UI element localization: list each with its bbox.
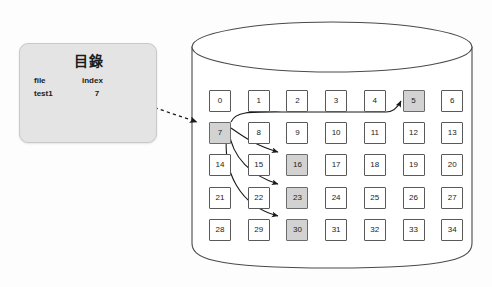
directory-cell-index: 7 xyxy=(82,87,146,100)
disk-block-24[interactable]: 24 xyxy=(325,187,347,209)
disk-block-3[interactable]: 3 xyxy=(325,90,347,112)
disk-block-27[interactable]: 27 xyxy=(441,187,463,209)
directory-title: 目錄 xyxy=(20,50,158,70)
diagram-canvas: 目錄 file index test1 7 012345678910111213… xyxy=(0,0,492,287)
disk-block-5[interactable]: 5 xyxy=(403,90,425,112)
disk-block-26[interactable]: 26 xyxy=(403,187,425,209)
disk-cylinder: 0123456789101112131415161718192021222324… xyxy=(190,20,476,272)
disk-block-33[interactable]: 33 xyxy=(403,219,425,241)
directory-row: test1 7 xyxy=(34,87,146,100)
directory-card: 目錄 file index test1 7 xyxy=(19,43,157,143)
disk-block-34[interactable]: 34 xyxy=(441,219,463,241)
disk-block-28[interactable]: 28 xyxy=(209,219,231,241)
disk-block-13[interactable]: 13 xyxy=(441,122,463,144)
disk-block-9[interactable]: 9 xyxy=(286,122,308,144)
disk-block-17[interactable]: 17 xyxy=(325,154,347,176)
disk-block-30[interactable]: 30 xyxy=(286,219,308,241)
directory-header-row: file index xyxy=(34,74,146,87)
directory-table: file index test1 7 xyxy=(34,74,146,100)
directory-col-file: file xyxy=(34,74,82,87)
disk-block-23[interactable]: 23 xyxy=(286,187,308,209)
disk-block-7[interactable]: 7 xyxy=(209,122,231,144)
disk-block-0[interactable]: 0 xyxy=(209,90,231,112)
disk-block-6[interactable]: 6 xyxy=(441,90,463,112)
disk-block-19[interactable]: 19 xyxy=(403,154,425,176)
disk-block-10[interactable]: 10 xyxy=(325,122,347,144)
disk-block-16[interactable]: 16 xyxy=(286,154,308,176)
disk-block-21[interactable]: 21 xyxy=(209,187,231,209)
directory-cell-file: test1 xyxy=(34,87,82,100)
disk-block-20[interactable]: 20 xyxy=(441,154,463,176)
disk-block-31[interactable]: 31 xyxy=(325,219,347,241)
directory-col-index: index xyxy=(82,74,146,87)
disk-block-grid: 0123456789101112131415161718192021222324… xyxy=(209,90,463,242)
disk-block-22[interactable]: 22 xyxy=(248,187,270,209)
disk-block-2[interactable]: 2 xyxy=(286,90,308,112)
disk-block-12[interactable]: 12 xyxy=(403,122,425,144)
disk-block-4[interactable]: 4 xyxy=(364,90,386,112)
disk-block-11[interactable]: 11 xyxy=(364,122,386,144)
disk-block-25[interactable]: 25 xyxy=(364,187,386,209)
disk-block-15[interactable]: 15 xyxy=(248,154,270,176)
disk-block-29[interactable]: 29 xyxy=(248,219,270,241)
disk-block-18[interactable]: 18 xyxy=(364,154,386,176)
disk-block-32[interactable]: 32 xyxy=(364,219,386,241)
disk-block-1[interactable]: 1 xyxy=(248,90,270,112)
disk-block-14[interactable]: 14 xyxy=(209,154,231,176)
disk-block-8[interactable]: 8 xyxy=(248,122,270,144)
